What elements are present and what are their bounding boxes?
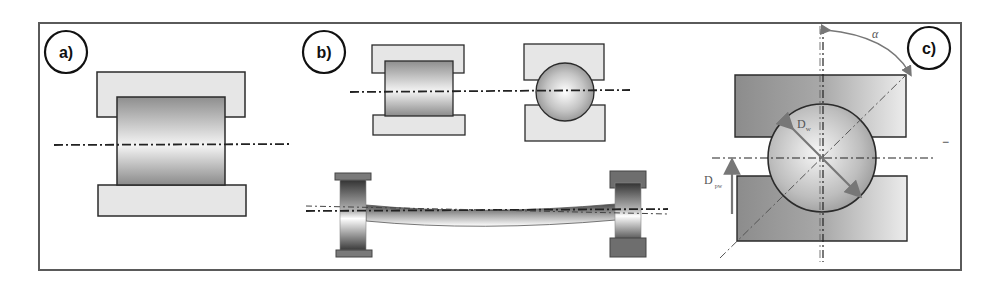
cylindrical-roller [117, 97, 225, 185]
roller-element [385, 61, 453, 116]
right-bearing-cap-bottom [610, 238, 646, 257]
side-mark: − [942, 135, 949, 149]
contact-angle-label: α [872, 27, 879, 41]
ball-element [536, 63, 594, 121]
roller-ring-bottom [373, 115, 465, 135]
panel-a-label-badge: a) [45, 31, 87, 73]
panel-c-label: c) [922, 40, 936, 57]
panel-b: b) [303, 31, 668, 257]
shaft-deflection-view [306, 171, 668, 257]
panel-a: a) [45, 31, 292, 216]
contact-angle-arc [826, 30, 909, 72]
panel-b-label-badge: b) [303, 31, 345, 73]
panel-a-label: a) [59, 44, 73, 61]
left-bearing-cap-top [335, 173, 371, 180]
left-bearing-hub [340, 180, 366, 250]
left-bearing-cap-bottom [336, 250, 372, 257]
deflected-shaft [366, 204, 616, 226]
panel-b-label: b) [316, 44, 331, 61]
panel-c-label-badge: c) [908, 27, 950, 69]
bearing-diagram-figure: a) b) [0, 0, 989, 281]
panel-c: c) Dw Dpw α − [704, 26, 950, 262]
outer-ring-bottom [98, 185, 246, 216]
pitch-diameter-label: Dpw [704, 173, 723, 189]
